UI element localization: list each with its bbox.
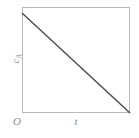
origin-label: O xyxy=(13,116,21,127)
y-axis-label: cA xyxy=(10,47,24,71)
concentration-vs-time-chart: cA O t xyxy=(0,0,139,138)
x-axis-label: t xyxy=(22,116,130,127)
data-line-cA xyxy=(22,13,130,113)
data-line-svg xyxy=(22,7,130,113)
y-axis-label-subscript: A xyxy=(15,54,24,59)
y-axis-label-symbol: c xyxy=(9,59,21,64)
